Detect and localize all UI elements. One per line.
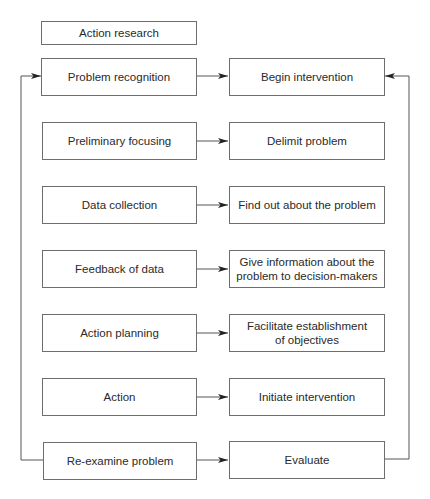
box-action: Action bbox=[42, 378, 197, 416]
box-data-collection: Data collection bbox=[42, 186, 197, 224]
box-label: Initiate intervention bbox=[259, 390, 356, 404]
box-label: Evaluate bbox=[285, 453, 330, 467]
box-evaluate: Evaluate bbox=[229, 441, 385, 479]
box-label: Problem recognition bbox=[68, 70, 170, 84]
box-give-information: Give information about the problem to de… bbox=[229, 250, 385, 288]
box-initiate-intervention: Initiate intervention bbox=[229, 378, 385, 416]
box-problem-recognition: Problem recognition bbox=[41, 58, 197, 96]
box-begin-intervention: Begin intervention bbox=[229, 58, 385, 96]
box-label: Re-examine problem bbox=[67, 454, 174, 468]
box-label: Data collection bbox=[82, 198, 157, 212]
box-action-planning: Action planning bbox=[42, 314, 197, 352]
box-label: Action planning bbox=[80, 326, 159, 340]
box-label: Action bbox=[104, 390, 136, 404]
title-box: Action research bbox=[41, 21, 197, 45]
box-find-out-about-problem: Find out about the problem bbox=[229, 186, 385, 224]
box-label: Feedback of data bbox=[75, 262, 164, 276]
box-re-examine-problem: Re-examine problem bbox=[43, 442, 197, 480]
box-feedback-of-data: Feedback of data bbox=[42, 250, 197, 288]
box-label: Preliminary focusing bbox=[68, 134, 172, 148]
box-label: Delimit problem bbox=[267, 134, 347, 148]
box-label: Give information about the problem to de… bbox=[236, 255, 377, 283]
box-facilitate-objectives: Facilitate establishment of objectives bbox=[229, 314, 385, 352]
box-label: Begin intervention bbox=[261, 70, 353, 84]
box-label: Facilitate establishment of objectives bbox=[247, 319, 367, 347]
title-label: Action research bbox=[79, 26, 159, 40]
box-preliminary-focusing: Preliminary focusing bbox=[42, 122, 197, 160]
right-feedback-loop bbox=[385, 76, 409, 459]
box-label: Find out about the problem bbox=[238, 198, 375, 212]
left-feedback-loop bbox=[21, 76, 43, 460]
box-delimit-problem: Delimit problem bbox=[229, 122, 385, 160]
